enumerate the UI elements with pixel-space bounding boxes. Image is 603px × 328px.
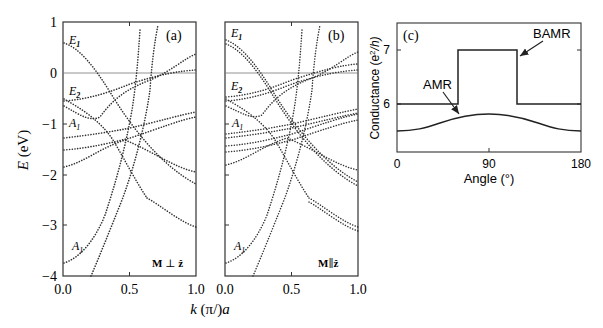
figure-canvas: E1 E2 A1 A1 (a) M ⊥ ẑ 1 0 −1 −2 −3 −4 0.… bbox=[0, 0, 603, 328]
svg-text:−1: −1 bbox=[42, 117, 57, 132]
panel-a-xticklabels: 0.0 0.5 1.0 bbox=[54, 282, 205, 297]
magnetization-parallel-label: M∥ẑ bbox=[318, 257, 338, 269]
amr-curve bbox=[397, 114, 581, 131]
label-a1-lower-b: A1 bbox=[233, 239, 245, 255]
energy-axis-label: E (eV) bbox=[15, 130, 32, 171]
amr-label: AMR bbox=[423, 77, 452, 92]
amr-arrow bbox=[443, 92, 459, 114]
panel-c-ticks bbox=[397, 50, 581, 152]
panel-b: E1 E2 A1 A1 (b) M∥ẑ 0.0 0.5 1.0 bbox=[216, 22, 367, 297]
svg-text:6: 6 bbox=[383, 97, 390, 111]
svg-text:0.0: 0.0 bbox=[216, 282, 234, 297]
panel-a-label: (a) bbox=[166, 28, 182, 44]
svg-text:180: 180 bbox=[571, 157, 591, 171]
wavevector-axis-label: k (π/)a bbox=[190, 301, 230, 318]
svg-text:7: 7 bbox=[383, 43, 390, 57]
panel-a-yticklabels: 1 0 −1 −2 −3 −4 bbox=[42, 15, 57, 284]
svg-text:1.0: 1.0 bbox=[349, 282, 367, 297]
svg-text:0: 0 bbox=[394, 157, 401, 171]
svg-text:1.0: 1.0 bbox=[187, 282, 205, 297]
angle-axis-label: Angle (°) bbox=[464, 171, 515, 186]
panel-b-bands bbox=[226, 25, 358, 276]
label-e1-a: E1 bbox=[68, 33, 80, 49]
svg-text:−2: −2 bbox=[42, 168, 57, 183]
panel-a-bands bbox=[64, 25, 196, 276]
label-e2-b: E2 bbox=[230, 79, 242, 95]
svg-text:0.5: 0.5 bbox=[121, 282, 139, 297]
svg-text:0: 0 bbox=[50, 66, 57, 81]
svg-text:0.5: 0.5 bbox=[283, 282, 301, 297]
panel-b-ticks bbox=[225, 22, 292, 276]
label-e1-b: E1 bbox=[230, 26, 242, 42]
svg-text:−3: −3 bbox=[42, 218, 57, 233]
bamr-label: BAMR bbox=[533, 26, 571, 41]
label-a1-lower-a: A1 bbox=[71, 239, 83, 255]
panel-a-frame bbox=[63, 22, 196, 276]
panel-b-frame bbox=[225, 22, 358, 276]
panel-a: E1 E2 A1 A1 (a) M ⊥ ẑ 1 0 −1 −2 −3 −4 0.… bbox=[15, 15, 205, 297]
conductance-axis-label: Conductance (e2/h) bbox=[368, 36, 382, 139]
panel-c-label: (c) bbox=[403, 28, 419, 44]
panel-b-xticklabels: 0.0 0.5 1.0 bbox=[216, 282, 367, 297]
bamr-arrow bbox=[520, 41, 543, 56]
panel-b-label: (b) bbox=[328, 28, 345, 44]
label-a1-upper-b: A1 bbox=[231, 116, 243, 132]
panel-c: BAMR AMR (c) 7 6 0 90 180 Angle (°) Cond… bbox=[368, 23, 591, 186]
label-a1-upper-a: A1 bbox=[68, 116, 80, 132]
svg-text:1: 1 bbox=[50, 15, 57, 30]
svg-text:0.0: 0.0 bbox=[54, 282, 72, 297]
svg-text:90: 90 bbox=[482, 157, 496, 171]
label-e2-a: E2 bbox=[68, 84, 80, 100]
magnetization-perp-label: M ⊥ ẑ bbox=[152, 257, 183, 269]
